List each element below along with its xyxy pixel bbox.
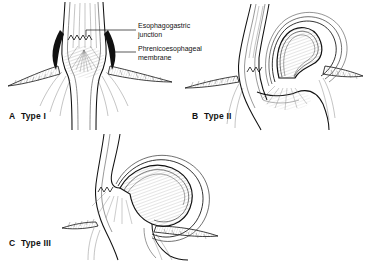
caption-a-text: Type I	[21, 111, 46, 121]
caption-c-text: Type III	[21, 238, 51, 248]
caption-panel-b: B Type II	[192, 111, 232, 121]
caption-b-letter: B	[192, 111, 198, 121]
herniated-fundus-sac	[277, 28, 322, 78]
label-egj-line1: Esophagogastric	[138, 22, 190, 31]
hiatal-hernia-figure: Esophagogastric junction Phrenicoesophag…	[0, 0, 365, 261]
esophagus-outline	[238, 4, 269, 130]
esophagus-striations	[73, 3, 97, 48]
label-pem-line2: membrane	[138, 54, 202, 63]
label-phrenicoesophageal-membrane: Phrenicoesophageal membrane	[138, 45, 202, 62]
caption-panel-a: A Type I	[9, 111, 46, 121]
panel-type-iii	[60, 130, 270, 261]
caption-b-text: Type II	[204, 111, 232, 121]
label-egj-line2: junction	[138, 31, 190, 40]
crural-striations	[40, 72, 128, 116]
caption-c-letter: C	[9, 238, 15, 248]
herniated-stomach	[120, 165, 192, 226]
z-line-zigzag	[68, 35, 92, 40]
caption-a-letter: A	[9, 111, 15, 121]
label-esophagogastric-junction: Esophagogastric junction	[138, 22, 190, 39]
stomach-body	[257, 90, 329, 130]
z-line-zigzag	[98, 187, 113, 192]
caption-panel-c: C Type III	[9, 238, 51, 248]
label-pem-line1: Phrenicoesophageal	[138, 45, 202, 54]
diaphragm	[62, 219, 218, 239]
esophagus-outline	[95, 134, 120, 260]
z-line-zigzag	[247, 67, 262, 72]
cardia-fan-hatching	[92, 192, 132, 224]
panel-c-illustration	[60, 130, 270, 261]
